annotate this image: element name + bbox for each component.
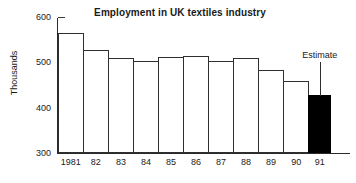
bar-91 — [308, 95, 331, 153]
bar-series — [58, 18, 350, 153]
bar-84 — [133, 61, 159, 153]
bar-90 — [283, 81, 309, 152]
bar-88 — [233, 58, 259, 152]
bar-89 — [258, 70, 284, 153]
bar-82 — [83, 50, 109, 152]
y-tick-label-400: 400 — [21, 103, 51, 113]
y-tick-label-500: 500 — [21, 57, 51, 67]
chart-title: Employment in UK textiles industry — [60, 7, 300, 18]
estimate-annotation-label: Estimate — [292, 50, 348, 60]
x-tick-label-91: 91 — [305, 157, 335, 167]
bar-1981 — [58, 33, 84, 152]
x-axis-line — [57, 153, 350, 154]
bar-87 — [208, 61, 234, 153]
bar-chart: Employment in UK textiles industry Thous… — [0, 0, 356, 183]
bar-85 — [158, 57, 184, 152]
bar-86 — [183, 56, 209, 153]
y-tick-label-600: 600 — [21, 12, 51, 22]
bar-83 — [108, 58, 134, 153]
y-tick-label-300: 300 — [21, 148, 51, 158]
y-axis-title: Thousands — [9, 28, 19, 118]
estimate-annotation-leader-line — [320, 62, 321, 96]
plot-area — [57, 18, 350, 154]
